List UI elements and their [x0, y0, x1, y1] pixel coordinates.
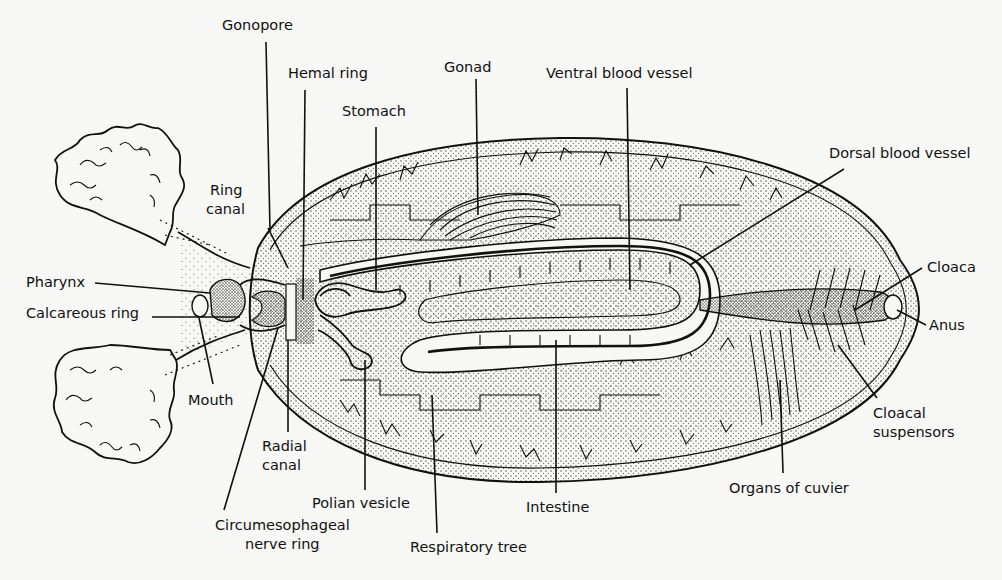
- label-text-mouth: Mouth: [188, 392, 233, 408]
- tentacles-upper: [55, 124, 230, 255]
- label-text-anus: Anus: [929, 317, 965, 333]
- label-text-cloacal-suspensors: Cloacal: [873, 405, 926, 421]
- label-gonopore: Gonopore: [222, 17, 293, 230]
- label-text2-cloacal-suspensors: suspensors: [873, 424, 955, 440]
- label-text-gonopore: Gonopore: [222, 17, 293, 33]
- label-text2-circumesophageal-nerve-ring: nerve ring: [245, 536, 320, 552]
- anus-opening: [884, 295, 902, 319]
- label-text-radial-canal: Radial: [262, 438, 307, 454]
- label-text-respiratory-tree: Respiratory tree: [410, 539, 527, 555]
- label-text2-ring-canal: canal: [206, 201, 245, 217]
- label-text-dorsal-blood-vessel: Dorsal blood vessel: [829, 145, 970, 161]
- label-text-hemal-ring: Hemal ring: [288, 65, 368, 81]
- label-text-calcareous-ring: Calcareous ring: [26, 305, 139, 321]
- label-text-intestine: Intestine: [526, 499, 590, 515]
- label-text-cloaca: Cloaca: [927, 259, 976, 275]
- diagram-canvas: GonoporeHemal ringStomachGonadVentral bl…: [0, 0, 1002, 580]
- label-text-gonad: Gonad: [444, 59, 491, 75]
- anatomy-diagram: GonoporeHemal ringStomachGonadVentral bl…: [0, 0, 1002, 580]
- label-text-stomach: Stomach: [342, 103, 406, 119]
- label-text-ventral-blood-vessel: Ventral blood vessel: [546, 65, 692, 81]
- leader-line-circumesophageal-nerve-ring: [224, 328, 278, 510]
- label-text-organs-of-cuvier: Organs of cuvier: [729, 480, 849, 496]
- label-text-circumesophageal-nerve-ring: Circumesophageal: [215, 517, 350, 533]
- label-text2-radial-canal: canal: [262, 457, 301, 473]
- leader-line-gonopore: [266, 42, 270, 230]
- label-text-polian-vesicle: Polian vesicle: [312, 495, 410, 511]
- label-text-pharynx: Pharynx: [26, 274, 86, 290]
- label-text-ring-canal: Ring: [210, 182, 243, 198]
- hemal-ring-region: [286, 278, 314, 344]
